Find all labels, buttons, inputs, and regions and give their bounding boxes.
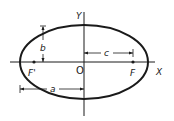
semi-minor-label: b	[40, 43, 46, 53]
focus-left-point	[32, 60, 35, 63]
origin-label: O	[76, 65, 84, 76]
y-axis-label: Y	[76, 11, 83, 21]
ellipse-diagram: Y X O F' F b c a	[0, 0, 174, 121]
focus-left-label: F'	[28, 68, 36, 78]
focus-right-label: F	[130, 68, 136, 78]
x-axis-label: X	[155, 67, 163, 77]
semi-major-label: a	[50, 84, 56, 94]
focus-right-point	[131, 60, 134, 63]
focal-distance-label: c	[104, 48, 109, 58]
